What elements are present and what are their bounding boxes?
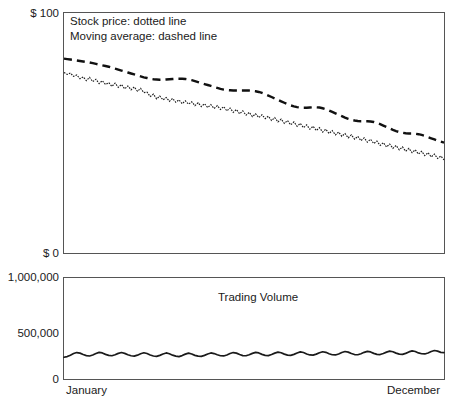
volume-axis-tick-1000000: 1,000,000: [0, 271, 59, 283]
price-panel-frame: [64, 13, 445, 254]
price-axis-tick-0: $ 0: [0, 247, 59, 259]
x-axis-tick-january: January: [66, 384, 107, 396]
volume-axis-tick-500000: 500,000: [0, 327, 59, 339]
chart-canvas: $ 100 $ 0 1,000,000 500,000 0 Stock pric…: [0, 0, 462, 411]
x-axis-tick-december: December: [387, 384, 440, 396]
price-axis-tick-100: $ 100: [0, 7, 59, 19]
moving-average-line: [64, 59, 444, 143]
volume-panel-title: Trading Volume: [218, 291, 298, 303]
trading-volume-line: [64, 351, 444, 358]
stock-price-line: [64, 73, 444, 160]
legend-stock-price: Stock price: dotted line: [70, 14, 186, 29]
stock-chart-graphic: [0, 0, 462, 411]
price-panel-series: [64, 59, 444, 160]
volume-panel-series: [64, 351, 444, 358]
legend-moving-average: Moving average: dashed line: [70, 29, 217, 44]
volume-axis-tick-0: 0: [0, 373, 59, 385]
